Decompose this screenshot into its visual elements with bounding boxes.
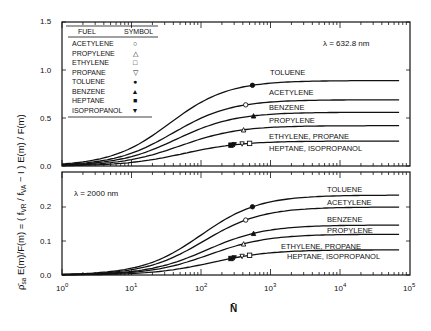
label-benzene-top: BENZENE <box>269 103 304 112</box>
label-toluene-top: TOLUENE <box>270 68 305 77</box>
open-circle-marker <box>244 218 248 222</box>
y-axis-label: ρ̄sa E(m)/F(m) = ( fVR / fVA − I ) E(m) … <box>15 114 27 290</box>
filled-triangle-marker <box>251 114 255 118</box>
bottom-lambda-label: λ = 2000 nm <box>74 189 119 198</box>
open-inverted-triangle-marker <box>240 254 244 258</box>
label-ethylene-propane-bottom: ETHYLENE, PROPANE <box>281 242 361 251</box>
top-ytick-0.5: 0.5 <box>40 114 52 123</box>
label-benzene-bottom: BENZENE <box>327 215 362 224</box>
open-square-marker <box>247 253 251 257</box>
open-inverted-triangle-marker <box>240 142 244 146</box>
top-lambda-label: λ = 632.8 nm <box>323 39 370 48</box>
legend-fuel-heptane: HEPTANE <box>72 97 105 104</box>
legend-header-symbol: SYMBOL <box>124 28 153 35</box>
legend-fuel-isopropanol: ISOPROPANOL <box>72 107 123 114</box>
legend-symbol-acetylene-icon: ○ <box>133 40 137 47</box>
legend-fuel-propane: PROPANE <box>72 69 106 76</box>
legend-symbol-ethylene-icon: □ <box>133 59 138 66</box>
open-circle-marker <box>244 103 248 107</box>
filled-circle-marker <box>250 83 254 87</box>
label-propylene-top: PROPYLENE <box>269 116 315 125</box>
filled-circle-marker <box>250 205 254 209</box>
xtick-1e0: 100 <box>56 282 69 293</box>
legend: FUEL SYMBOL ACETYLENE○PROPYLENE△ETHYLENE… <box>66 26 158 117</box>
label-heptane-isopropanol-top: HEPTANE, ISOPROPANOL <box>269 144 362 153</box>
filled-square-marker <box>229 143 233 147</box>
xtick-1e5: 105 <box>403 282 416 293</box>
label-acetylene-top: ACETYLENE <box>269 88 314 97</box>
label-acetylene-bottom: ACETYLENE <box>327 198 372 207</box>
legend-fuel-toluene: TOLUENE <box>72 78 105 85</box>
legend-fuel-benzene: BENZENE <box>72 88 105 95</box>
bottom-ytick-0.1: 0.1 <box>40 237 52 246</box>
xtick-1e2: 102 <box>195 282 208 293</box>
open-square-marker <box>247 141 251 145</box>
label-propylene-bottom: PROPYLENE <box>327 226 373 235</box>
label-ethylene-propane-top: ETHYLENE, PROPANE <box>269 132 349 141</box>
legend-symbol-propane-icon: ▽ <box>133 69 139 76</box>
legend-header-fuel: FUEL <box>78 28 96 35</box>
figure: 1.5 1.0 0.5 0.0 0.2 0.1 0.0 100 101 102 … <box>0 0 431 331</box>
label-heptane-isopropanol-bottom: HEPTANE, ISOPROPANOL <box>287 252 380 261</box>
top-ytick-1.0: 1.0 <box>40 66 52 75</box>
top-ytick-1.5: 1.5 <box>40 17 52 26</box>
xtick-1e4: 104 <box>334 282 347 293</box>
xtick-1e3: 103 <box>264 282 277 293</box>
legend-symbol-heptane-icon: ■ <box>133 97 137 104</box>
legend-fuel-acetylene: ACETYLENE <box>72 40 114 47</box>
legend-symbol-benzene-icon: ▲ <box>132 88 139 95</box>
bottom-ytick-0.2: 0.2 <box>40 202 52 211</box>
bottom-ytick-0.0: 0.0 <box>40 271 52 280</box>
open-triangle-marker <box>241 242 245 246</box>
legend-fuel-propylene: PROPYLENE <box>72 50 115 57</box>
xtick-1e1: 101 <box>125 282 138 293</box>
open-triangle-marker <box>241 128 245 132</box>
legend-symbol-isopropanol-icon: ▼ <box>132 107 139 114</box>
x-axis-label: N̄ <box>230 303 237 314</box>
label-toluene-bottom: TOLUENE <box>327 185 362 194</box>
top-ytick-0.0: 0.0 <box>40 162 52 171</box>
legend-fuel-ethylene: ETHYLENE <box>72 59 109 66</box>
x-tick-labels: 100 101 102 103 104 105 <box>56 282 416 293</box>
legend-symbol-propylene-icon: △ <box>133 50 139 57</box>
filled-triangle-marker <box>251 231 255 235</box>
legend-symbol-toluene-icon: ● <box>133 78 137 85</box>
filled-square-marker <box>229 256 233 260</box>
